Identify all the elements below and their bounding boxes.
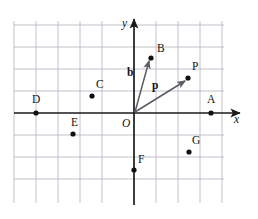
point-B (148, 55, 153, 60)
point-label-F: F (138, 153, 144, 165)
vector-label-p: p (152, 79, 158, 92)
point-D (33, 110, 38, 115)
point-label-A: A (207, 93, 216, 105)
point-label-P: P (192, 60, 198, 72)
point-F (131, 167, 136, 172)
x-axis-label: x (233, 113, 240, 125)
vector-diagram-figure: bpABCDEFGPxyO (0, 0, 258, 219)
point-E (70, 131, 75, 136)
y-axis-label: y (121, 17, 128, 30)
point-label-E: E (71, 116, 78, 128)
coordinate-plane-svg: bpABCDEFGPxyO (0, 0, 258, 219)
point-C (89, 93, 94, 98)
point-label-B: B (157, 42, 165, 54)
point-label-D: D (32, 93, 40, 105)
point-A (208, 110, 213, 115)
origin-label: O (122, 117, 131, 129)
point-label-G: G (192, 134, 200, 146)
point-G (186, 149, 191, 154)
point-label-C: C (96, 78, 104, 90)
vector-label-b: b (127, 66, 133, 78)
point-P (185, 75, 190, 80)
